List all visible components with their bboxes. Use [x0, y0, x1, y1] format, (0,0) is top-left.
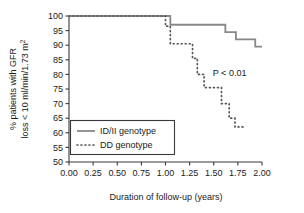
- y-axis-title: % patients with GFR loss < 10 ml/min/1.7…: [8, 39, 30, 138]
- x-tick-label: 2.00: [253, 168, 271, 178]
- x-tick-label: 0.25: [84, 168, 102, 178]
- y-tick-label: 70: [53, 99, 63, 109]
- y-tick-label: 95: [53, 26, 63, 36]
- y-axis-title-line2-text: loss < 10 ml/min/1.73 m: [20, 43, 30, 138]
- y-axis-title-line2-sup: 2: [19, 39, 26, 43]
- y-tick-label: 85: [53, 55, 63, 65]
- x-axis-ticks: 0.000.250.500.751.001.251.501.752.00: [60, 162, 271, 178]
- x-tick-label: 0.00: [60, 168, 78, 178]
- x-axis-title: Duration of follow-up (years): [109, 192, 222, 202]
- y-tick-label: 55: [53, 143, 63, 153]
- x-tick-label: 0.50: [108, 168, 126, 178]
- x-tick-label: 0.75: [133, 168, 151, 178]
- x-tick-label: 1.75: [229, 168, 247, 178]
- y-tick-label: 80: [53, 70, 63, 80]
- y-tick-label: 90: [53, 40, 63, 50]
- y-tick-label: 100: [48, 11, 63, 21]
- y-axis-ticks: 50556065707580859095100: [48, 11, 69, 167]
- chart-canvas: % patients with GFR loss < 10 ml/min/1.7…: [0, 0, 304, 213]
- p-value-annotation: P < 0.01: [213, 68, 247, 78]
- chart-legend: ID/II genotype DD genotype: [71, 121, 175, 155]
- y-tick-label: 60: [53, 128, 63, 138]
- y-tick-label: 50: [53, 157, 63, 167]
- legend-label-id-ii-genotype: ID/II genotype: [100, 126, 156, 136]
- y-axis-title-line1: % patients with GFR: [8, 47, 18, 130]
- survival-chart-figure: % patients with GFR loss < 10 ml/min/1.7…: [0, 0, 304, 213]
- x-tick-label: 1.25: [181, 168, 199, 178]
- y-tick-label: 75: [53, 84, 63, 94]
- y-tick-label: 65: [53, 113, 63, 123]
- x-tick-label: 1.00: [157, 168, 175, 178]
- x-tick-label: 1.50: [205, 168, 223, 178]
- y-axis-title-line2: loss < 10 ml/min/1.73 m2: [19, 39, 30, 138]
- legend-label-dd-genotype: DD genotype: [100, 140, 153, 150]
